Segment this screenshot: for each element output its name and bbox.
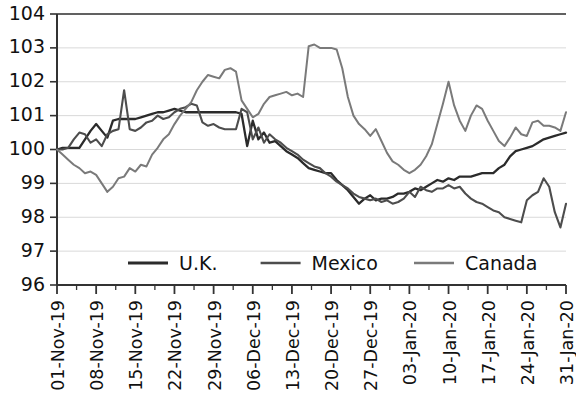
y-tick-label-104: 104	[9, 2, 45, 24]
x-tick-label-7: 20-Dec-19	[322, 300, 342, 391]
chart-canvas: 10410310210110099989796 01-Nov-1908-Nov-…	[0, 0, 576, 406]
x-tick-label-3: 22-Nov-19	[165, 300, 185, 391]
legend-label-canada: Canada	[465, 252, 537, 274]
y-tick-label-98: 98	[21, 205, 45, 227]
x-tick-label-2: 15-Nov-19	[126, 300, 146, 391]
x-tick-label-10: 10-Jan-20	[440, 300, 460, 385]
x-tick-label-8: 27-Dec-19	[361, 300, 381, 391]
legend-label-uk: U.K.	[179, 252, 217, 274]
y-tick-label-100: 100	[9, 137, 45, 159]
x-tick-label-13: 31-Jan-20	[557, 300, 576, 385]
x-tick-label-12: 24-Jan-20	[518, 300, 538, 385]
y-tick-label-97: 97	[21, 239, 45, 261]
chart-legend: U.K.MexicoCanada	[128, 252, 537, 274]
x-tick-label-11: 17-Jan-20	[479, 300, 499, 385]
x-tick-label-4: 29-Nov-19	[205, 300, 225, 391]
x-tick-label-6: 13-Dec-19	[283, 300, 303, 391]
x-tick-label-5: 06-Dec-19	[244, 300, 264, 391]
y-tick-label-102: 102	[9, 69, 45, 91]
y-tick-label-99: 99	[21, 171, 45, 193]
y-tick-label-103: 103	[9, 35, 45, 57]
line-chart-figure: 10410310210110099989796 01-Nov-1908-Nov-…	[0, 0, 576, 406]
x-tick-label-0: 01-Nov-19	[48, 300, 68, 391]
x-tick-label-1: 08-Nov-19	[87, 300, 107, 391]
y-tick-label-101: 101	[9, 103, 45, 125]
y-tick-label-96: 96	[21, 273, 45, 295]
legend-label-mexico: Mexico	[312, 252, 378, 274]
x-tick-label-9: 03-Jan-20	[400, 300, 420, 385]
